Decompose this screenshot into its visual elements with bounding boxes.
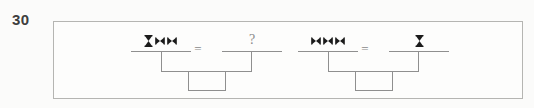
question-number: 30 (12, 11, 30, 28)
balance-crossbar (328, 71, 419, 72)
pedestal-right-line (392, 71, 393, 90)
hourglass-icon (415, 35, 424, 47)
balance-support-left (328, 51, 329, 71)
balance-support-left (161, 51, 162, 71)
right-symbol-group (222, 34, 282, 47)
balance-equation-2: = (298, 32, 474, 100)
left-symbol-group (144, 34, 177, 47)
pedestal-left-line (188, 71, 189, 90)
bowtie-icon (335, 37, 345, 45)
equals-sign: = (357, 42, 373, 56)
hourglass-icon (144, 35, 153, 47)
bowtie-icon (155, 37, 165, 45)
bowtie-icon (167, 37, 177, 45)
pedestal-right-line (225, 71, 226, 90)
puzzle-question-30: 30 = ? = (0, 0, 534, 108)
pedestal-base-line (355, 90, 393, 91)
balance-support-right (251, 51, 252, 71)
right-symbol-group (389, 34, 449, 47)
pedestal-base-line (188, 90, 226, 91)
puzzle-panel: = ? = (53, 21, 523, 99)
bowtie-icon (311, 37, 321, 45)
balance-support-right (418, 51, 419, 71)
bowtie-icon (323, 37, 333, 45)
pedestal-left-line (355, 71, 356, 90)
left-symbol-group (311, 34, 345, 47)
balance-crossbar (161, 71, 252, 72)
equals-sign: = (190, 42, 206, 56)
right-pan-line (389, 51, 449, 52)
right-pan-line (222, 51, 282, 52)
balance-equation-1: = ? (131, 32, 307, 100)
